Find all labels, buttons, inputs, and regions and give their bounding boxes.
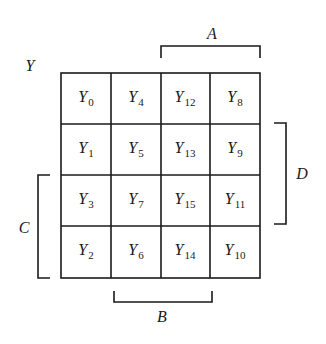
map-title: Y (26, 58, 35, 74)
map-cell: Y7 (128, 191, 143, 212)
map-cell: Y11 (225, 191, 246, 212)
map-cell: Y1 (78, 140, 93, 161)
bracket-a (161, 46, 260, 58)
cell-index: 10 (234, 249, 245, 261)
karnaugh-map-lines (0, 0, 326, 344)
cell-index: 11 (235, 198, 246, 210)
bracket-c (38, 175, 50, 278)
label-c: C (19, 220, 30, 236)
cell-variable: Y (78, 139, 87, 156)
cell-variable: Y (78, 190, 87, 207)
map-cell: Y3 (78, 191, 93, 212)
cell-index: 7 (138, 198, 144, 210)
map-cell: Y5 (128, 140, 143, 161)
map-cell: Y13 (175, 140, 196, 161)
cell-index: 12 (184, 96, 195, 108)
cell-index: 1 (88, 147, 94, 159)
cell-index: 5 (138, 147, 144, 159)
cell-index: 8 (237, 96, 243, 108)
map-cell: Y6 (128, 242, 143, 263)
cell-variable: Y (78, 88, 87, 105)
cell-variable: Y (227, 139, 236, 156)
map-cell: Y14 (175, 242, 196, 263)
bracket-b (114, 291, 212, 302)
label-d: D (296, 166, 308, 182)
cell-variable: Y (175, 88, 184, 105)
cell-index: 6 (138, 249, 144, 261)
cell-index: 13 (184, 147, 195, 159)
map-cell: Y2 (78, 242, 93, 263)
cell-variable: Y (128, 190, 137, 207)
map-cell: Y8 (227, 89, 242, 110)
cell-index: 9 (237, 147, 243, 159)
map-cell: Y15 (175, 191, 196, 212)
cell-variable: Y (175, 139, 184, 156)
cell-index: 15 (184, 198, 195, 210)
bracket-d (274, 123, 286, 224)
cell-variable: Y (128, 139, 137, 156)
cell-variable: Y (175, 241, 184, 258)
cell-variable: Y (227, 88, 236, 105)
cell-variable: Y (225, 190, 234, 207)
label-b: B (157, 309, 167, 325)
cell-variable: Y (78, 241, 87, 258)
cell-index: 14 (184, 249, 195, 261)
map-cell: Y4 (128, 89, 143, 110)
cell-index: 3 (88, 198, 94, 210)
map-cell: Y12 (175, 89, 196, 110)
cell-index: 4 (138, 96, 144, 108)
cell-variable: Y (225, 241, 234, 258)
cell-variable: Y (175, 190, 184, 207)
label-a: A (207, 26, 217, 42)
map-cell: Y10 (225, 242, 246, 263)
cell-index: 0 (88, 96, 94, 108)
cell-index: 2 (88, 249, 94, 261)
map-cell: Y9 (227, 140, 242, 161)
cell-variable: Y (128, 241, 137, 258)
cell-variable: Y (128, 88, 137, 105)
map-cell: Y0 (78, 89, 93, 110)
